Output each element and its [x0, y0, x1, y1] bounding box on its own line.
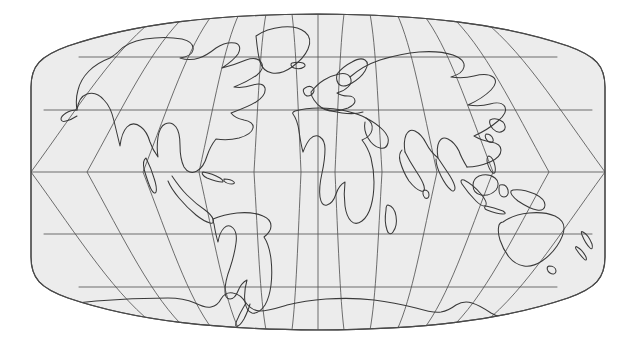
world-map-figure — [0, 0, 634, 345]
world-map-svg — [0, 0, 634, 345]
